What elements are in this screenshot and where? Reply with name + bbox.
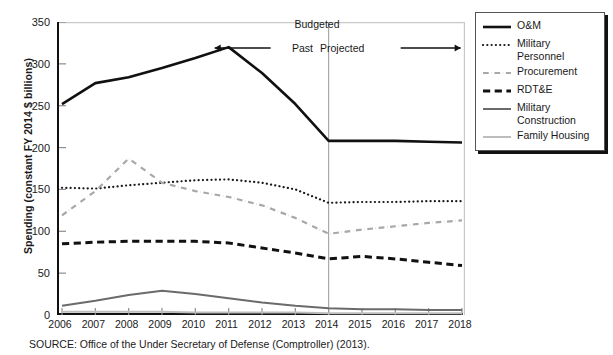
- series-line-military-personnel: [62, 179, 462, 202]
- x-tick-2017: 2017: [415, 318, 438, 330]
- legend-swatch-icon: [482, 20, 512, 34]
- legend-item-rdt-e[interactable]: RDT&E: [482, 83, 600, 98]
- legend-swatch-icon: [482, 38, 512, 52]
- y-tick-250: 250: [22, 100, 50, 111]
- annotation-projected: Projected: [320, 42, 364, 54]
- x-tick-2014: 2014: [315, 318, 338, 330]
- x-tick-2006: 2006: [48, 318, 71, 330]
- x-tick-2012: 2012: [248, 318, 271, 330]
- legend: O&MMilitary PersonnelProcurementRDT&EMil…: [475, 12, 605, 151]
- y-tick-300: 300: [22, 58, 50, 69]
- legend-label: O&M: [517, 19, 541, 32]
- x-tick-2015: 2015: [348, 318, 371, 330]
- legend-label: Procurement: [517, 65, 577, 78]
- x-tick-2018: 2018: [448, 318, 471, 330]
- x-tick-2013: 2013: [282, 318, 305, 330]
- legend-label: Military Construction: [517, 101, 600, 126]
- x-tick-2010: 2010: [182, 318, 205, 330]
- x-tick-2007: 2007: [82, 318, 105, 330]
- legend-swatch-icon: [482, 84, 512, 98]
- y-tick-350: 350: [22, 17, 50, 28]
- legend-item-military-personnel[interactable]: Military Personnel: [482, 37, 600, 62]
- annotation-budgeted: Budgeted: [295, 18, 340, 30]
- series-line-military-construction: [62, 291, 462, 310]
- legend-swatch-icon: [482, 130, 512, 144]
- series-canvas: [59, 22, 465, 315]
- y-tick-100: 100: [22, 226, 50, 237]
- legend-item-procurement[interactable]: Procurement: [482, 65, 600, 80]
- legend-label: Family Housing: [517, 129, 589, 142]
- plot-area: [57, 22, 463, 315]
- legend-item-family-housing[interactable]: Family Housing: [482, 129, 600, 144]
- y-tick-200: 200: [22, 142, 50, 153]
- legend-swatch-icon: [482, 102, 512, 116]
- x-tick-2011: 2011: [215, 318, 238, 330]
- series-line-procurement: [62, 158, 462, 233]
- legend-label: Military Personnel: [517, 37, 600, 62]
- legend-item-o-m[interactable]: O&M: [482, 19, 600, 34]
- y-tick-150: 150: [22, 184, 50, 195]
- series-line-o-m: [62, 47, 462, 142]
- series-line-family-housing: [62, 312, 462, 314]
- x-axis-tick-labels: 2006200720082009201020112012201320142015…: [57, 318, 463, 336]
- source-caption: SOURCE: Office of the Under Secretary of…: [29, 338, 370, 350]
- legend-label: RDT&E: [517, 83, 553, 96]
- x-tick-2008: 2008: [115, 318, 138, 330]
- x-tick-2016: 2016: [382, 318, 405, 330]
- legend-swatch-icon: [482, 66, 512, 80]
- legend-item-military-construction[interactable]: Military Construction: [482, 101, 600, 126]
- figure: Spending (constant FY 2014 $ billions) 0…: [0, 0, 613, 355]
- annotation-past: Past: [292, 42, 313, 54]
- x-tick-2009: 2009: [148, 318, 171, 330]
- y-tick-0: 0: [22, 310, 50, 321]
- y-axis-tick-labels: 050100150200250300350: [22, 0, 50, 355]
- series-line-rdt-e: [62, 241, 462, 265]
- y-tick-50: 50: [22, 268, 50, 279]
